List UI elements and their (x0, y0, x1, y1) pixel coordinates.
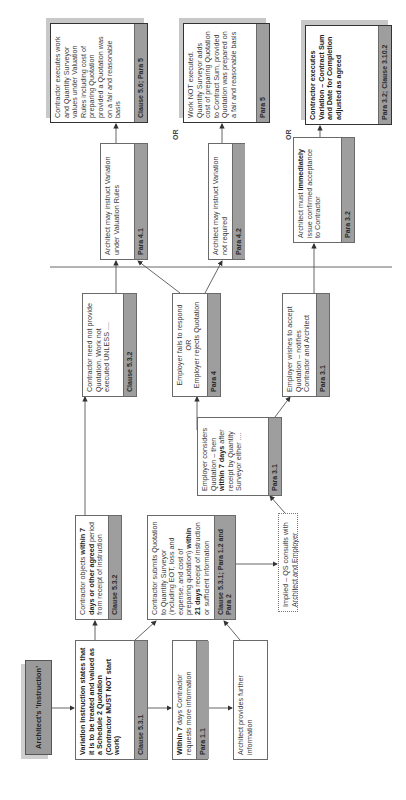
clause-reference: Clause 5.3.1 (134, 641, 147, 759)
or-label-1: OR (172, 130, 179, 141)
node-text: Architect may instruct Variation under V… (101, 144, 134, 259)
node-variation-instruction: Variation Instruction states that it is … (75, 640, 148, 760)
node-within-7-days-request: Within 7 days Contractor requests more i… (172, 640, 208, 760)
flowchart-canvas: Architect's 'Instruction' Variation Inst… (0, 0, 406, 800)
node-text: Implied – QS consults with Architect and… (279, 514, 302, 611)
clause-reference: Clause 5.3.2 (108, 516, 121, 619)
node-text: Variation Instruction states that it is … (76, 641, 134, 759)
node-text-part: Contractor executes Variation – Contract… (308, 35, 343, 120)
clause-reference: Clause 5.3.1; Para 1.2 and Para 2 (214, 516, 235, 619)
node-text: Contractor need not provide Quotation. W… (83, 294, 123, 396)
clause-reference: Para 3.1 (316, 294, 329, 396)
node-employer-accepts: Employer wishes to accept Quotation – no… (282, 293, 330, 397)
node-text: Contractor executes work and Quantity Su… (51, 24, 134, 122)
node-text: Contractor executes Variation – Contract… (306, 26, 378, 124)
or-label-2: OR (285, 130, 292, 141)
node-implied-qs-consults: Implied – QS consults with Architect and… (278, 513, 298, 612)
node-employer-fails-or-rejects: Employer fails to respondOREmployer reje… (172, 293, 221, 397)
node-employer-considers: Employer considers Quotation – then with… (197, 417, 282, 496)
node-contractor-executes-variation: Contractor executes Variation – Contract… (305, 25, 392, 125)
node-text-part: issue confirmed acceptance to Contractor (305, 149, 323, 238)
node-text: Within 7 days Contractor requests more i… (173, 641, 196, 759)
clause-reference: Para 3.2 (341, 138, 354, 242)
clause-reference: Para 4.1 (134, 144, 147, 259)
node-architect-instruct-valuation: Architect may instruct Variation under V… (100, 143, 148, 260)
node-text: Work NOT executed. Quantity Surveyor add… (184, 24, 256, 122)
clause-reference: Para 3.1 (268, 418, 281, 495)
node-text-part: Employer considers Quotation – then (200, 428, 218, 491)
node-text-part: Contractor executes work and Quantity Su… (53, 36, 122, 118)
node-contractor-submits-quotation: Contractor submits Quotation to Quantity… (147, 515, 236, 620)
node-architect-instruct-not-required: Architect may instruct Variation not req… (208, 143, 245, 260)
clause-reference: Para 4 (207, 294, 220, 396)
node-text-part: Variation Instruction states that it is … (78, 648, 121, 755)
clause-reference: Para 3.2; Clause 3.10.2 (378, 26, 391, 124)
clause-reference: Para 5 (256, 24, 269, 122)
node-text: Employer fails to respondOREmployer reje… (173, 294, 207, 396)
clause-reference: Clause 5.6; Para 5 (134, 24, 147, 122)
node-contractor-objects: Contractor objects within 7 days or othe… (75, 515, 122, 620)
node-text: Architect must immediately issue confirm… (294, 138, 341, 242)
node-text-part: Employer rejects Quotation (192, 302, 201, 389)
node-text-part: Architect may instruct Variation under V… (103, 156, 121, 255)
clause-reference: Clause 5.3.2 (123, 294, 136, 396)
node-text-part: Work NOT executed. Quantity Surveyor add… (186, 31, 238, 118)
node-text-part: Employer wishes to accept Quotation – no… (285, 307, 311, 393)
node-text: Employer wishes to accept Quotation – no… (283, 294, 316, 396)
node-text-part: Contractor need not provide Quotation. W… (85, 303, 111, 392)
clause-reference: Para 4.2 (232, 144, 245, 259)
node-text-part: Architect may instruct Variation not req… (211, 156, 229, 255)
node-contractor-executes-work: Contractor executes work and Quantity Su… (50, 23, 148, 123)
node-text: Architect may instruct Variation not req… (209, 144, 232, 259)
node-text-part: Implied – QS consults with Architect and… (281, 522, 299, 607)
clause-reference: Para 1.1 (196, 641, 209, 759)
node-text-part: Architect provides further information (236, 675, 254, 755)
node-contractor-need-not-provide: Contractor need not provide Quotation. W… (82, 293, 137, 397)
node-architect-provides-info: Architect provides further information (233, 640, 268, 760)
node-architect-immediate-acceptance: Architect must immediately issue confirm… (293, 137, 355, 243)
node-work-not-executed: Work NOT executed. Quantity Surveyor add… (183, 23, 270, 123)
node-text: Contractor objects within 7 days or othe… (76, 516, 108, 619)
node-text: Architect provides further information (234, 641, 267, 759)
node-text: Employer considers Quotation – then with… (198, 418, 268, 495)
node-text: Contractor submits Quotation to Quantity… (148, 516, 214, 619)
start-label: Architect's 'Instruction' (34, 666, 43, 749)
start-architect-instruction: Architect's 'Instruction' (25, 660, 52, 755)
